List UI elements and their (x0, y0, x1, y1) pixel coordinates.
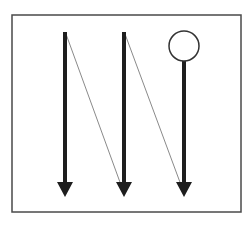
scan-path-diagram (0, 0, 249, 229)
down-arrow-2 (116, 32, 132, 197)
arrow-head-icon (57, 182, 73, 197)
connector-line-1 (66, 34, 121, 185)
down-arrow-1 (57, 32, 73, 197)
start-circle-marker (169, 31, 199, 61)
arrow-head-icon (176, 182, 192, 197)
downward-arrows (57, 32, 192, 197)
arrow-head-icon (116, 182, 132, 197)
